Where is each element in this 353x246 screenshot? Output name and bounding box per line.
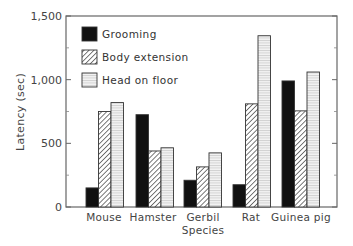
bar-mouse-body-extension: [99, 112, 112, 208]
x-tick-label: Mouse: [86, 211, 122, 223]
x-axis-title: Species: [182, 224, 225, 236]
bar-hamster-grooming: [136, 115, 149, 207]
legend: GroomingBody extensionHead on floor: [82, 27, 189, 87]
legend-swatch: [82, 27, 97, 41]
bar-gerbil-head-on-floor: [209, 153, 222, 207]
bar-mouse-head-on-floor: [111, 103, 124, 207]
bar-hamster-head-on-floor: [161, 148, 174, 207]
legend-label: Body extension: [102, 51, 189, 63]
y-tick-label: 1,500: [31, 10, 63, 23]
y-tick-label: 500: [41, 137, 62, 150]
x-tick-label: Rat: [242, 211, 261, 223]
x-tick-label: Gerbil: [186, 211, 219, 223]
bar-chart: 05001,0001,500 Latency (sec) MouseHamste…: [0, 0, 353, 246]
bar-rat-grooming: [233, 185, 246, 207]
legend-label: Grooming: [102, 28, 157, 40]
x-axis-categories: MouseHamsterGerbilRatGuinea pig: [86, 211, 331, 223]
bar-rat-head-on-floor: [258, 36, 271, 207]
bar-mouse-grooming: [86, 188, 99, 207]
bar-guinea-pig-head-on-floor: [307, 72, 320, 207]
bar-gerbil-grooming: [184, 180, 197, 207]
bar-gerbil-body-extension: [197, 167, 210, 207]
legend-swatch: [82, 50, 97, 64]
y-axis-title: Latency (sec): [14, 73, 27, 151]
bar-guinea-pig-body-extension: [295, 111, 308, 207]
bar-rat-body-extension: [246, 104, 259, 207]
x-tick-label: Guinea pig: [271, 211, 331, 223]
bar-hamster-body-extension: [149, 151, 162, 207]
y-tick-label: 1,000: [31, 74, 63, 87]
x-tick-label: Hamster: [129, 211, 176, 223]
legend-label: Head on floor: [102, 74, 178, 86]
legend-swatch: [82, 73, 97, 87]
y-tick-label: 0: [55, 201, 62, 214]
bar-guinea-pig-grooming: [282, 81, 295, 207]
